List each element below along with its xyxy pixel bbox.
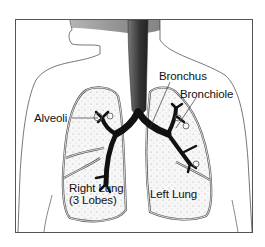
label-right-lung-lobes: (3 Lobes) bbox=[69, 194, 117, 206]
label-left-lung: Left Lung bbox=[150, 188, 197, 200]
label-right-lung: Right Lung bbox=[69, 182, 124, 194]
body-outline bbox=[18, 20, 252, 232]
label-alveoli: Alveoli bbox=[34, 112, 67, 124]
label-bronchus: Bronchus bbox=[159, 70, 207, 82]
label-bronchiole: Bronchiole bbox=[180, 88, 233, 100]
